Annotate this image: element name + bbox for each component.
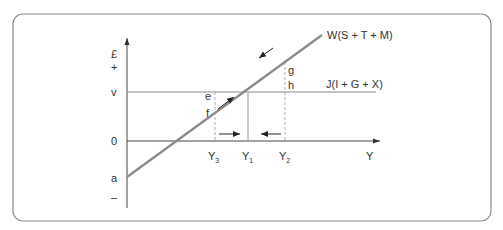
y-axis-minus-label: – — [111, 191, 118, 203]
a-intercept-label: a — [111, 172, 118, 184]
point-e-label: e — [205, 90, 211, 102]
injections-label: J(I + G + X) — [326, 78, 383, 90]
y-axis-pound-label: £ — [111, 48, 117, 60]
diagram-frame — [13, 14, 491, 221]
y2-label: Y2 — [279, 150, 290, 164]
withdrawals-line — [127, 35, 322, 177]
arrow-down-along-w — [259, 48, 273, 58]
equilibrium-diagram: £ + v 0 a – Y W(S + T + M) J(I + G + X) … — [0, 0, 503, 230]
arrow-up-along-w — [218, 97, 234, 109]
withdrawals-label: W(S + T + M) — [327, 29, 393, 41]
point-h-label: h — [288, 79, 294, 91]
origin-label: 0 — [111, 135, 117, 147]
x-axis-label: Y — [366, 150, 374, 162]
point-g-label: g — [288, 64, 294, 76]
y3-label: Y3 — [208, 150, 219, 164]
y-axis-plus-label: + — [111, 61, 117, 73]
y1-label: Y1 — [242, 150, 253, 164]
v-level-label: v — [111, 86, 117, 98]
